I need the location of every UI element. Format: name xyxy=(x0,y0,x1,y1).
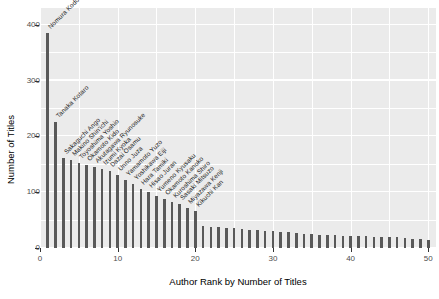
bar xyxy=(404,238,407,248)
bar xyxy=(217,227,220,248)
bar xyxy=(256,230,259,248)
bar xyxy=(326,235,329,248)
bar xyxy=(310,234,313,248)
bar xyxy=(342,236,345,248)
bar xyxy=(163,199,166,248)
bar xyxy=(225,228,228,248)
bar xyxy=(78,163,81,248)
bar xyxy=(70,160,73,248)
bar xyxy=(287,232,290,248)
bar xyxy=(427,240,430,248)
bar xyxy=(318,235,321,248)
x-tick-label: 10 xyxy=(106,254,130,263)
y-tick-mark xyxy=(35,81,39,82)
bar xyxy=(373,237,376,248)
x-tick-label: 50 xyxy=(416,254,439,263)
bar xyxy=(248,230,251,248)
y-tick-mark xyxy=(35,248,39,249)
bar xyxy=(202,226,205,248)
plot-panel: Nomura KodoTanaka KotaroSakaguchi AngoMa… xyxy=(40,8,436,248)
bar xyxy=(357,236,360,248)
bar xyxy=(380,237,383,248)
x-tick-mark xyxy=(40,248,41,252)
x-tick-mark xyxy=(428,248,429,252)
bar xyxy=(233,228,236,248)
bar xyxy=(54,122,57,248)
bar xyxy=(419,239,422,248)
y-tick-mark xyxy=(35,136,39,137)
bar xyxy=(264,231,267,248)
bar xyxy=(155,196,158,248)
bar xyxy=(178,204,181,248)
bar xyxy=(140,189,143,248)
bar xyxy=(241,229,244,248)
x-tick-mark xyxy=(195,248,196,252)
bar xyxy=(303,234,306,249)
x-tick-label: 40 xyxy=(339,254,363,263)
bar xyxy=(93,167,96,248)
x-tick-mark xyxy=(351,248,352,252)
bar xyxy=(295,233,298,248)
bar xyxy=(194,211,197,248)
bar xyxy=(85,165,88,248)
bar xyxy=(132,184,135,248)
y-tick-mark xyxy=(35,25,39,26)
x-axis-title: Author Rank by Number of Titles xyxy=(40,276,436,287)
bar xyxy=(124,180,127,248)
x-tick-label: 0 xyxy=(28,254,52,263)
x-tick-mark xyxy=(273,248,274,252)
bar xyxy=(272,231,275,248)
y-tick-mark xyxy=(35,192,39,193)
bar xyxy=(116,175,119,248)
bar xyxy=(365,236,368,248)
bar xyxy=(171,202,174,248)
bar xyxy=(186,208,189,248)
bar xyxy=(279,232,282,248)
bar xyxy=(396,237,399,248)
bar xyxy=(411,239,414,248)
bar xyxy=(334,235,337,248)
bar xyxy=(210,227,213,248)
bar xyxy=(349,236,352,248)
x-tick-mark xyxy=(118,248,119,252)
chart-figure: Number of Titles 0100200300400 Nomura Ko… xyxy=(0,0,439,299)
x-tick-label: 20 xyxy=(183,254,207,263)
bar xyxy=(388,237,391,248)
bar xyxy=(109,171,112,248)
bar xyxy=(101,169,104,248)
bar xyxy=(62,158,65,248)
bar xyxy=(147,192,150,248)
bar xyxy=(46,33,49,248)
x-tick-label: 30 xyxy=(261,254,285,263)
